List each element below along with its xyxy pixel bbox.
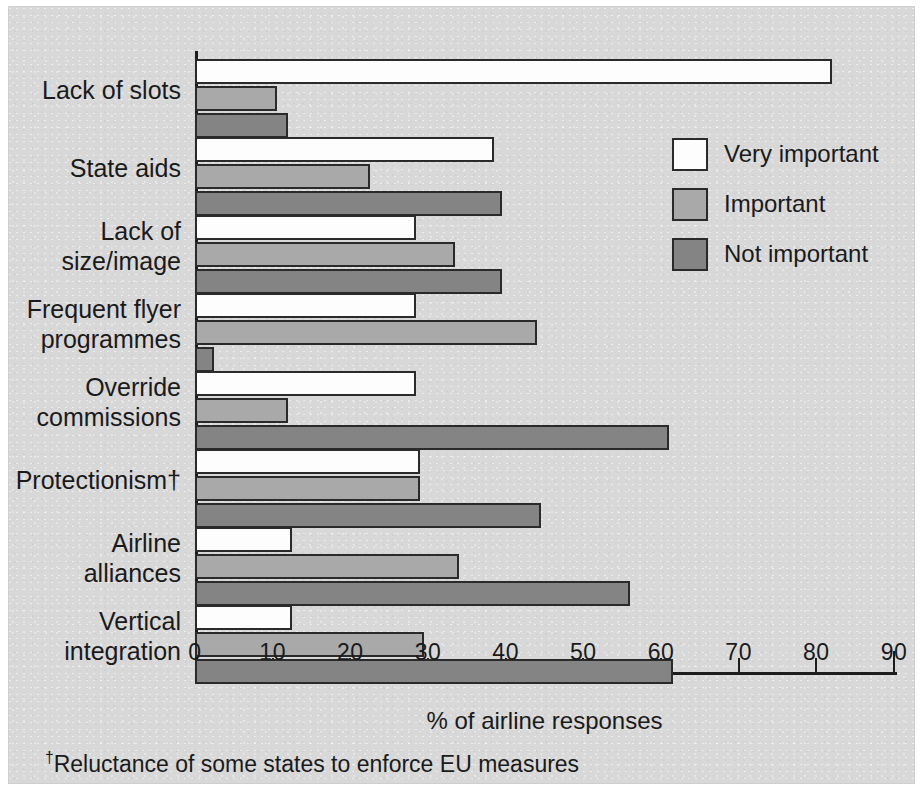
bar bbox=[195, 554, 459, 579]
legend-label: Not important bbox=[724, 240, 868, 268]
bar bbox=[195, 527, 292, 552]
bar bbox=[195, 476, 420, 501]
bar bbox=[195, 113, 288, 138]
category-label: Protectionism† bbox=[16, 465, 181, 495]
legend-label: Important bbox=[724, 190, 825, 218]
bar bbox=[195, 293, 416, 318]
legend-item[interactable]: Important bbox=[672, 185, 879, 223]
bar bbox=[195, 215, 416, 240]
x-axis-tick-label: 80 bbox=[803, 639, 830, 666]
legend-item[interactable]: Not important bbox=[672, 235, 879, 273]
bar bbox=[195, 320, 537, 345]
bar bbox=[195, 371, 416, 396]
legend-label: Very important bbox=[724, 140, 879, 168]
x-axis-tick-label: 40 bbox=[492, 639, 519, 666]
bar bbox=[195, 242, 455, 267]
bar bbox=[195, 503, 541, 528]
x-axis-tick-label: 90 bbox=[881, 639, 908, 666]
chart-figure: Lack of slotsState aidsLack of size/imag… bbox=[0, 0, 923, 799]
category-label: Lack of slots bbox=[42, 75, 181, 105]
category-label: Override commissions bbox=[37, 372, 181, 432]
legend-swatch-icon bbox=[672, 138, 708, 171]
category-label: State aids bbox=[70, 153, 181, 183]
legend-swatch-icon bbox=[672, 188, 708, 221]
category-label: Vertical integration bbox=[64, 606, 181, 666]
footnote-text: Reluctance of some states to enforce EU … bbox=[54, 751, 579, 777]
bar bbox=[195, 605, 292, 630]
bar bbox=[195, 191, 502, 216]
legend-item[interactable]: Very important bbox=[672, 135, 879, 173]
category-label: Lack of size/image bbox=[62, 216, 182, 276]
x-axis-tick-label: 0 bbox=[188, 639, 201, 666]
legend-swatch-icon bbox=[672, 238, 708, 271]
bar bbox=[195, 425, 669, 450]
category-axis-labels: Lack of slotsState aidsLack of size/imag… bbox=[9, 51, 195, 675]
bar bbox=[195, 398, 288, 423]
x-axis-tick-label: 10 bbox=[259, 639, 286, 666]
bar bbox=[195, 632, 424, 657]
x-axis-tick-label: 60 bbox=[648, 639, 675, 666]
category-label: Airline alliances bbox=[84, 528, 181, 588]
bar bbox=[195, 137, 494, 162]
chart-panel: Lack of slotsState aidsLack of size/imag… bbox=[8, 6, 915, 784]
x-axis-tick-label: 70 bbox=[725, 639, 752, 666]
x-axis-tick-label: 20 bbox=[337, 639, 364, 666]
bar bbox=[195, 86, 277, 111]
bar bbox=[195, 269, 502, 294]
chart-legend: Very importantImportantNot important bbox=[672, 135, 879, 285]
bar bbox=[195, 347, 214, 372]
bar bbox=[195, 581, 630, 606]
x-axis-tick-label: 30 bbox=[415, 639, 442, 666]
bar bbox=[195, 449, 420, 474]
bar bbox=[195, 164, 370, 189]
chart-footnote: †Reluctance of some states to enforce EU… bbox=[45, 749, 579, 778]
x-axis-title: % of airline responses bbox=[195, 707, 894, 735]
footnote-dagger-icon: † bbox=[45, 749, 54, 766]
bar bbox=[195, 59, 832, 84]
x-axis-tick-label: 50 bbox=[570, 639, 597, 666]
category-label: Frequent flyer programmes bbox=[27, 294, 181, 354]
